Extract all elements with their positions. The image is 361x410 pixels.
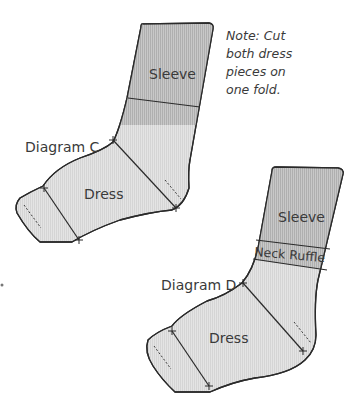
- stray-mark: [1, 284, 4, 287]
- diagram-c-sleeve-label: Sleeve: [149, 66, 196, 82]
- note-line-2: both dress: [226, 46, 293, 61]
- pattern-diagram-canvas: Sleeve Dress Diagram C Sleeve Neck Ruffl…: [0, 0, 361, 410]
- diagram-c-dress-label: Dress: [84, 186, 123, 202]
- diagram-d-title: Diagram D: [161, 277, 236, 293]
- diagram-d-sleeve-label: Sleeve: [278, 209, 325, 225]
- note-line-3: pieces on: [225, 64, 286, 79]
- note-line-1: Note: Cut: [226, 28, 286, 43]
- diagram-c-title: Diagram C: [25, 139, 100, 155]
- cutting-note: Note: Cut both dress pieces on one fold.: [225, 28, 293, 97]
- diagram-d-dress-label: Dress: [209, 330, 248, 346]
- diagram-c: Sleeve Dress Diagram C: [16, 15, 230, 244]
- note-line-4: one fold.: [226, 82, 281, 97]
